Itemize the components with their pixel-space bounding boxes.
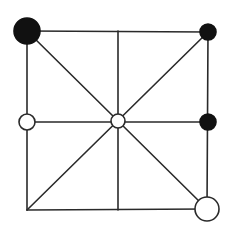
black-piece-top-right[interactable] <box>200 24 216 40</box>
black-piece-top-left[interactable] <box>14 18 40 44</box>
board-canvas <box>0 0 230 232</box>
game-board <box>0 0 230 232</box>
black-piece-middle-right[interactable] <box>200 114 216 130</box>
white-piece-center[interactable] <box>111 114 125 128</box>
white-piece-bottom-right[interactable] <box>195 197 219 221</box>
empty-point-top-middle[interactable] <box>110 23 126 39</box>
empty-point-bottom-left[interactable] <box>19 202 35 218</box>
white-piece-middle-left[interactable] <box>19 114 35 130</box>
empty-point-bottom-middle[interactable] <box>110 202 126 218</box>
